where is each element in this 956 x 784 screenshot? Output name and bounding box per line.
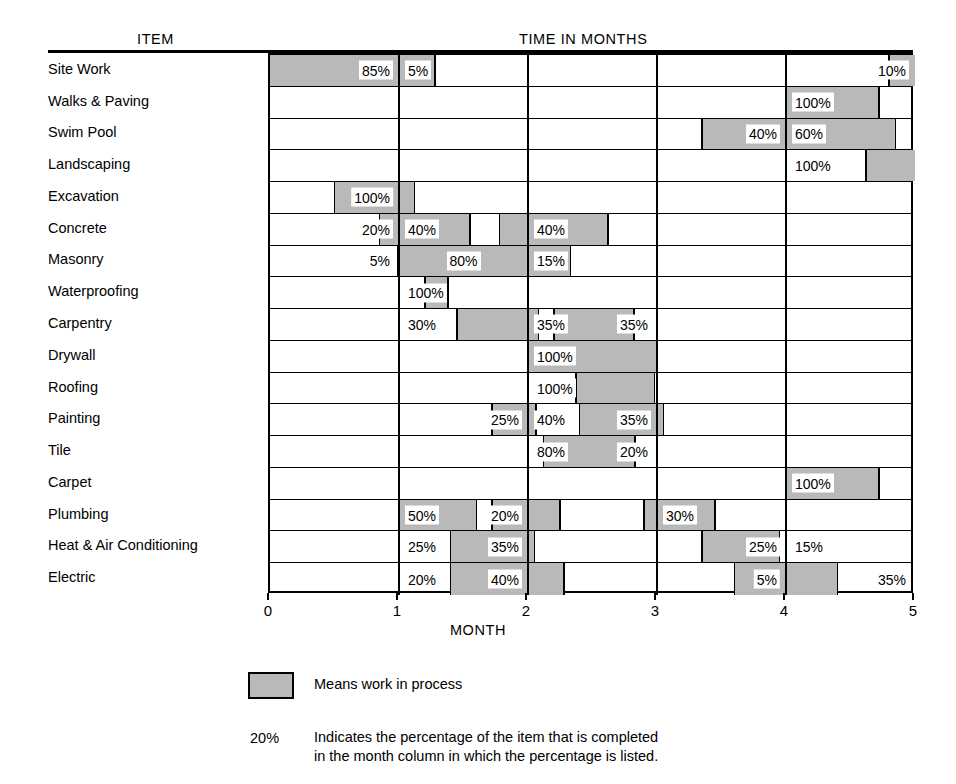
schedule-row: 100% xyxy=(270,150,911,182)
percentage-label: 35% xyxy=(875,570,909,589)
item-label-row: Excavation xyxy=(48,180,266,212)
item-label: Swim Pool xyxy=(48,124,117,140)
band-edge xyxy=(701,531,703,562)
band-edge xyxy=(607,214,609,245)
month-gridline xyxy=(656,87,658,118)
schedule-row: 20%40%5%35% xyxy=(270,563,911,595)
percentage-label: 35% xyxy=(488,537,522,556)
x-axis-tick-label: 0 xyxy=(248,602,288,619)
month-gridline xyxy=(656,404,658,435)
month-gridline xyxy=(656,500,658,531)
x-axis-tick-label: 3 xyxy=(635,602,675,619)
x-axis-tick xyxy=(525,593,527,600)
x-axis-tick xyxy=(267,593,269,600)
month-gridline xyxy=(656,563,658,595)
month-gridline xyxy=(398,309,400,340)
item-label: Plumbing xyxy=(48,506,108,522)
item-label: Masonry xyxy=(48,251,104,267)
percentage-label: 50% xyxy=(405,506,439,525)
month-gridline xyxy=(398,436,400,467)
legend-swatch-label: Means work in process xyxy=(314,676,462,692)
item-label: Painting xyxy=(48,410,100,426)
percentage-label: 40% xyxy=(534,220,568,239)
x-axis-title: MONTH xyxy=(0,622,956,638)
gantt-chart: ITEM TIME IN MONTHS Site WorkWalks & Pav… xyxy=(0,0,956,784)
band-edge xyxy=(450,563,452,595)
band-edge xyxy=(865,150,867,181)
item-label-row: Painting xyxy=(48,402,266,434)
schedule-row: 20%40%40% xyxy=(270,214,911,246)
percentage-label: 40% xyxy=(405,220,439,239)
percentage-label: 25% xyxy=(746,537,780,556)
month-gridline xyxy=(785,277,787,308)
legend-percent-key: 20% xyxy=(250,730,279,746)
percentage-label: 20% xyxy=(359,220,393,239)
item-label-row: Roofing xyxy=(48,371,266,403)
month-gridline xyxy=(527,436,529,467)
item-label-column: Site WorkWalks & PavingSwim PoolLandscap… xyxy=(48,53,266,593)
schedule-row: 30%35%35% xyxy=(270,309,911,341)
schedule-row: 5%80%15% xyxy=(270,246,911,278)
band-edge xyxy=(450,531,452,562)
month-gridline xyxy=(527,373,529,404)
band-edge xyxy=(714,500,716,531)
item-column-header: ITEM xyxy=(137,31,174,47)
month-gridline xyxy=(785,87,787,118)
month-gridline xyxy=(527,87,529,118)
percentage-label: 40% xyxy=(746,124,780,143)
month-gridline xyxy=(785,309,787,340)
month-gridline xyxy=(656,436,658,467)
month-gridline xyxy=(656,55,658,86)
x-axis-tick-label: 2 xyxy=(506,602,546,619)
item-label: Drywall xyxy=(48,347,96,363)
band-edge xyxy=(563,563,565,595)
month-gridline xyxy=(527,500,529,531)
item-label: Site Work xyxy=(48,61,111,77)
schedule-row: 25%40%35% xyxy=(270,404,911,436)
percentage-label: 100% xyxy=(792,93,834,112)
month-gridline xyxy=(527,182,529,213)
month-gridline xyxy=(527,531,529,562)
band-edge xyxy=(579,404,581,435)
schedule-row: 100% xyxy=(270,373,911,405)
band-edge xyxy=(434,55,436,86)
band-edge xyxy=(878,87,880,118)
percentage-label: 20% xyxy=(617,442,651,461)
item-label: Tile xyxy=(48,442,71,458)
percentage-label: 5% xyxy=(405,61,431,80)
item-label: Excavation xyxy=(48,188,119,204)
month-gridline xyxy=(785,500,787,531)
percentage-label: 10% xyxy=(875,61,909,80)
item-label-row: Waterproofing xyxy=(48,275,266,307)
band-edge xyxy=(878,468,880,499)
schedule-row: 100% xyxy=(270,468,911,500)
band-edge xyxy=(559,500,561,531)
month-gridline xyxy=(656,341,658,372)
month-gridline xyxy=(527,246,529,277)
month-gridline xyxy=(527,404,529,435)
time-axis-header: TIME IN MONTHS xyxy=(519,31,647,47)
item-label-row: Tile xyxy=(48,434,266,466)
month-gridline xyxy=(785,341,787,372)
percentage-label: 35% xyxy=(534,315,568,334)
x-axis-tick xyxy=(912,593,914,600)
item-label-row: Site Work xyxy=(48,53,266,85)
schedule-row: 100% xyxy=(270,341,911,373)
month-gridline xyxy=(398,404,400,435)
band-edge xyxy=(701,119,703,150)
month-gridline xyxy=(656,182,658,213)
month-gridline xyxy=(656,373,658,404)
percentage-label: 30% xyxy=(663,506,697,525)
month-gridline xyxy=(398,55,400,86)
item-label-row: Masonry xyxy=(48,244,266,276)
percentage-label: 80% xyxy=(446,251,480,270)
band-edge xyxy=(570,246,572,277)
month-gridline xyxy=(656,150,658,181)
x-axis-tick-label: 1 xyxy=(377,602,417,619)
month-gridline xyxy=(398,341,400,372)
x-axis-tick xyxy=(396,593,398,600)
percentage-label: 100% xyxy=(534,347,576,366)
month-gridline xyxy=(527,563,529,595)
percentage-label: 5% xyxy=(367,251,393,270)
month-gridline xyxy=(398,182,400,213)
